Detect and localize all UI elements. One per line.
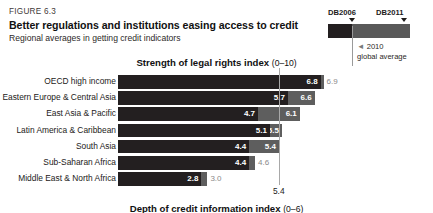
- bar-value-db2006: 6.8: [307, 75, 321, 89]
- chart-row-bars: 4.44.6: [118, 156, 416, 170]
- chart-row-bars: 5.55.1: [118, 124, 416, 138]
- chart-row-label: East Asia & Pacific: [46, 108, 116, 118]
- figure-title: Better regulations and institutions easi…: [9, 19, 319, 32]
- chart-row-bars: 6.65.7: [118, 91, 416, 105]
- chart-top-title: Strength of legal rights index (0–10): [0, 57, 433, 68]
- figure-subtitle: Regional averages in getting credit indi…: [9, 33, 319, 44]
- chart-row-label: Eastern Europe & Central Asia: [2, 92, 116, 102]
- legend-swatch-db2006: [328, 24, 352, 38]
- bar-value-db2011-outside: 4.6: [255, 156, 269, 170]
- chart-row: OECD high income6.86.9: [0, 74, 433, 90]
- chart-row: Sub-Saharan Africa4.44.6: [0, 155, 433, 171]
- triangle-down-icon-db2011: [401, 18, 407, 22]
- chart-top-title-text: Strength of legal rights index: [136, 57, 269, 68]
- bar-value-db2006: 5.1: [256, 124, 270, 138]
- chart-row-label: OECD high income: [44, 76, 116, 86]
- bar-segment-db2006: 5.1: [118, 124, 270, 138]
- global-average-value: 5.4: [273, 186, 285, 196]
- chart-row-bars: 5.44.4: [118, 140, 416, 154]
- bar-segment-db2006: 4.7: [118, 107, 258, 121]
- bar-segment-db2006: 4.4: [118, 156, 249, 170]
- figure-header: FIGURE 6.3 Better regulations and instit…: [9, 7, 319, 44]
- bar-value-db2006: 4.7: [244, 107, 258, 121]
- bar-chart-plot: OECD high income6.86.9Eastern Europe & C…: [0, 74, 433, 194]
- bar-value-db2006: 5.7: [274, 91, 288, 105]
- bar-value-db2011: 6.6: [301, 91, 315, 105]
- bar-value-db2006: 4.4: [235, 156, 249, 170]
- chart-row: Latin America & Caribbean5.55.1: [0, 123, 433, 139]
- left-arrow-icon: ◄: [357, 42, 365, 51]
- global-average-line: [279, 68, 280, 185]
- legend-label-db2011: DB2011: [376, 8, 403, 17]
- figure-number: FIGURE 6.3: [9, 7, 319, 17]
- bar-value-db2011: 5.4: [265, 140, 279, 154]
- bar-value-db2011-outside: 3.0: [207, 172, 221, 186]
- legend-swatch-db2011: [352, 24, 410, 38]
- bar-segment-db2006: 5.7: [118, 91, 288, 105]
- bar-segment-db2006: 6.8: [118, 75, 321, 89]
- legend-average-year: 2010: [367, 42, 384, 51]
- legend-swatch-bar: ◄ 2010 global average: [328, 24, 410, 38]
- bar-value-db2011: 6.1: [286, 107, 300, 121]
- triangle-down-icon-db2006: [349, 18, 355, 22]
- chart-row: South Asia5.44.4: [0, 139, 433, 155]
- chart-row-label: South Asia: [76, 141, 116, 151]
- legend-labels: DB2006 DB2011: [328, 8, 430, 18]
- chart-row: Middle East & North Africa2.83.0: [0, 171, 433, 187]
- bar-value-db2006: 2.8: [187, 172, 201, 186]
- chart-row-label: Latin America & Caribbean: [16, 125, 116, 135]
- chart-row: Eastern Europe & Central Asia6.65.7: [0, 90, 433, 106]
- chart-top-title-range: (0–10): [272, 58, 297, 68]
- chart-row-bars: 6.86.9: [118, 75, 416, 89]
- bar-value-db2006: 4.4: [235, 140, 249, 154]
- chart-row-bars: 6.14.7: [118, 107, 416, 121]
- chart-bottom-title: Depth of credit information index (0–6): [0, 203, 433, 213]
- chart-bottom-title-range: (0–6): [283, 204, 303, 213]
- chart-row-bars: 2.83.0: [118, 172, 416, 186]
- bar-segment-db2006: 2.8: [118, 172, 201, 186]
- chart-row-label: Sub-Saharan Africa: [43, 157, 116, 167]
- chart-row: East Asia & Pacific6.14.7: [0, 106, 433, 122]
- chart-row-label: Middle East & North Africa: [18, 173, 116, 183]
- bar-value-db2011-outside: 6.9: [324, 75, 338, 89]
- legend-label-db2006: DB2006: [328, 8, 356, 17]
- chart-bottom-title-text: Depth of credit information index: [130, 203, 281, 213]
- bar-segment-db2006: 4.4: [118, 140, 249, 154]
